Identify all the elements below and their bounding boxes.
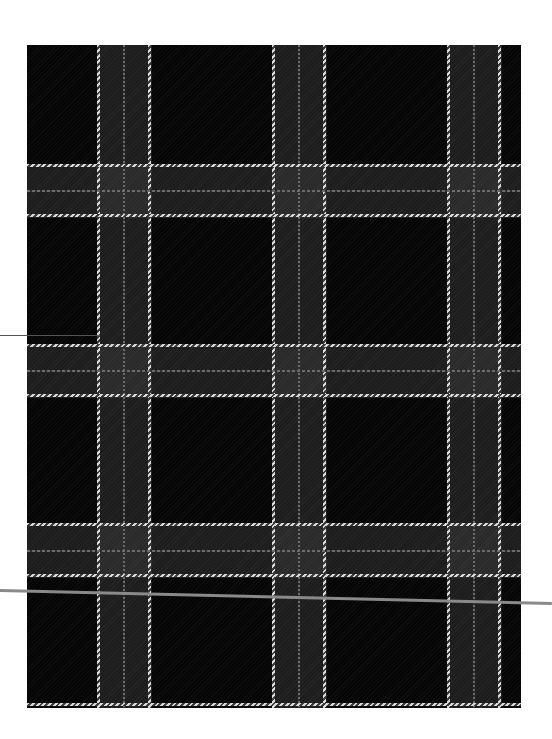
horizontal-faint-stripe [27,190,521,192]
horizontal-faint-stripe [27,370,521,372]
horizontal-white-stripe [27,574,521,577]
vertical-white-stripe [97,45,100,708]
horizontal-white-stripe [27,164,521,167]
bottom-edge-stripe [27,703,521,706]
vertical-faint-stripe [123,45,125,708]
vertical-white-stripe [498,45,501,708]
vertical-white-stripe [323,45,326,708]
scan-artifact-line [0,335,100,336]
tartan-fabric [27,45,521,708]
vertical-white-stripe [272,45,275,708]
horizontal-white-stripe [27,344,521,347]
vertical-faint-stripe [298,45,300,708]
horizontal-white-stripe [27,214,521,217]
horizontal-white-stripe [27,523,521,526]
horizontal-faint-stripe [27,550,521,552]
horizontal-white-stripe [27,394,521,397]
vertical-white-stripe [148,45,151,708]
vertical-white-stripe [447,45,450,708]
vertical-faint-stripe [473,45,475,708]
